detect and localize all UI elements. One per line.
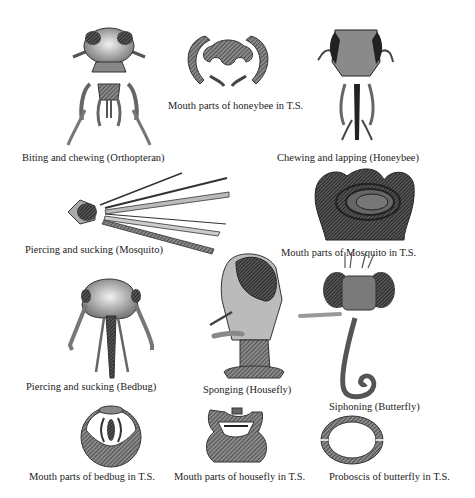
butterfly-ts-icon [0, 0, 475, 498]
label-butterfly-ts: Proboscis of butterfly in T.S. [329, 471, 450, 482]
